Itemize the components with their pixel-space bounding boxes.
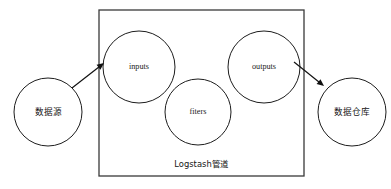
node-label-outputs: outputs: [252, 62, 276, 71]
diagram-canvas: 数据源 inputs fiters outputs 数据仓库 Logstash管…: [0, 0, 391, 189]
logstash-pipeline-diagram: 数据源 inputs fiters outputs 数据仓库 Logstash管…: [0, 0, 391, 189]
container-label-logstash-pipeline: Logstash管道: [174, 159, 228, 169]
node-label-fiters: fiters: [190, 107, 207, 116]
node-label-data-warehouse: 数据仓库: [334, 106, 370, 117]
node-label-inputs: inputs: [129, 62, 149, 71]
node-label-data-source: 数据源: [35, 106, 62, 117]
